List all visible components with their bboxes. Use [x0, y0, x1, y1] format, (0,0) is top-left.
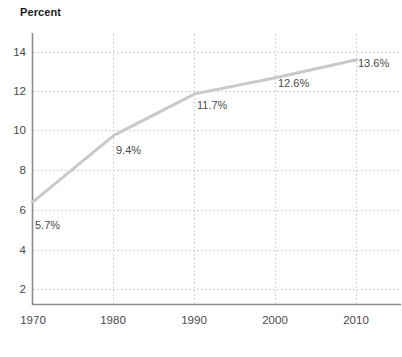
- y-tick-label-14: 14: [2, 46, 26, 58]
- data-label-2010: 13.6%: [358, 57, 389, 69]
- y-tick-label-8: 8: [2, 164, 26, 176]
- data-label-1990: 11.7%: [197, 99, 227, 111]
- y-tick-label-4: 4: [2, 244, 26, 256]
- y-tick-label-12: 12: [2, 85, 26, 97]
- x-tick-label-1990: 1990: [171, 314, 217, 326]
- x-tick-label-1970: 1970: [10, 314, 56, 326]
- x-tick-label-1980: 1980: [90, 314, 136, 326]
- y-tick-label-10: 10: [2, 124, 26, 136]
- vertical-gridlines: [114, 34, 357, 304]
- x-tick-label-2000: 2000: [252, 314, 298, 326]
- y-tick-label-2: 2: [2, 283, 26, 295]
- data-label-2000: 12.6%: [278, 77, 309, 89]
- chart-plot-area: [0, 0, 402, 357]
- data-label-1970: 5.7%: [35, 219, 60, 231]
- y-tick-label-6: 6: [2, 204, 26, 216]
- line-chart: Percent 14 12 10 8 6 4 2 1970 19: [0, 0, 402, 357]
- x-tick-label-2010: 2010: [333, 314, 379, 326]
- data-label-1980: 9.4%: [116, 144, 141, 156]
